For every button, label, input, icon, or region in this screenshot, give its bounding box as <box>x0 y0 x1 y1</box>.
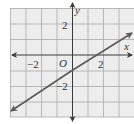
x-tick-label-neg2: −2 <box>27 58 39 70</box>
coordinate-plane: y x O −2 2 2 −2 <box>0 0 134 124</box>
x-tick-label-pos2: 2 <box>98 58 104 70</box>
x-axis-label: x <box>123 40 129 52</box>
origin-label: O <box>59 57 67 69</box>
y-axis-label: y <box>74 4 80 16</box>
y-tick-label-neg2: −2 <box>56 80 68 92</box>
y-tick-label-pos2: 2 <box>62 19 68 31</box>
